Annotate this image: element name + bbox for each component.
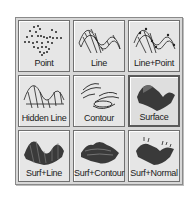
hidden-line-plot-icon bbox=[22, 78, 66, 112]
plot-style-line-point-button[interactable]: Line+Point bbox=[128, 20, 180, 72]
surface-normal-plot-icon bbox=[132, 133, 176, 167]
plot-style-surf-contour-button[interactable]: Surf+Contour bbox=[73, 130, 125, 182]
plot-style-label: Point bbox=[19, 58, 69, 68]
plot-style-contour-button[interactable]: Contour bbox=[73, 75, 125, 127]
plot-style-label: Surface bbox=[130, 112, 178, 122]
contour-plot-icon bbox=[77, 78, 121, 112]
plot-style-surf-line-button[interactable]: Surf+Line bbox=[18, 130, 70, 182]
plot-style-panel: Point Line Line+ bbox=[15, 17, 183, 185]
plot-style-label: Line+Point bbox=[129, 58, 179, 68]
point-plot-icon bbox=[22, 23, 66, 57]
plot-style-hidden-line-button[interactable]: Hidden Line bbox=[18, 75, 70, 127]
surface-plot-icon bbox=[133, 79, 177, 113]
line-plot-icon bbox=[77, 23, 121, 57]
plot-style-grid: Point Line Line+ bbox=[18, 20, 180, 182]
plot-style-line-button[interactable]: Line bbox=[73, 20, 125, 72]
plot-style-label: Surf+Normal bbox=[129, 168, 179, 178]
plot-style-label: Line bbox=[74, 58, 124, 68]
plot-style-label: Hidden Line bbox=[19, 113, 69, 123]
plot-style-label: Surf+Contour bbox=[74, 168, 124, 178]
surface-line-plot-icon bbox=[22, 133, 66, 167]
plot-style-surface-button[interactable]: Surface bbox=[128, 75, 180, 127]
plot-style-point-button[interactable]: Point bbox=[18, 20, 70, 72]
plot-style-surf-normal-button[interactable]: Surf+Normal bbox=[128, 130, 180, 182]
plot-style-label: Surf+Line bbox=[19, 168, 69, 178]
surface-contour-plot-icon bbox=[77, 133, 121, 167]
plot-style-label: Contour bbox=[74, 113, 124, 123]
line-point-plot-icon bbox=[132, 23, 176, 57]
